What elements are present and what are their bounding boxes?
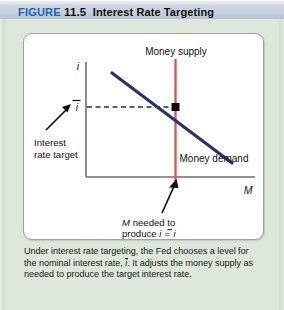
interest-rate-target-arrow-shaft [46, 108, 68, 130]
figure-caption: Under interest rate targeting, the Fed c… [24, 246, 262, 281]
interest-rate-target-arrow-head [62, 104, 71, 113]
money-needed-line1: M needed to [122, 217, 175, 228]
interest-rate-target-line1: Interest [34, 137, 66, 148]
figure-title: Interest Rate Targeting [93, 6, 214, 18]
figure-header-text: FIGURE 11.5 Interest Rate Targeting [18, 2, 214, 20]
y-axis-label: i [77, 60, 80, 72]
money-needed-arrow-shaft [162, 184, 175, 213]
interest-rate-target-annotation: Interest rate target [34, 104, 78, 160]
money-needed-ibar: i [173, 228, 176, 239]
money-demand-line [112, 73, 232, 163]
money-demand-label: Money demand [180, 153, 249, 164]
x-axis-label: M [244, 184, 253, 196]
interest-rate-target-line2: rate target [34, 149, 78, 160]
equilibrium-point [172, 103, 180, 111]
money-supply-label: Money supply [145, 46, 207, 57]
figure-label: FIGURE [18, 6, 61, 18]
interest-rate-targeting-chart: Money supply i M i Money demand Interest [24, 34, 263, 239]
figure-number: 11.5 [64, 6, 86, 18]
caption-i-bar: i [125, 258, 127, 270]
page-right-edge [278, 19, 284, 310]
money-needed-annotation: M needed to produce i = i [122, 179, 179, 239]
i-bar-text: i [76, 101, 79, 113]
chart-panel: Money supply i M i Money demand Interest [23, 33, 264, 240]
money-needed-arrow-head [169, 179, 179, 188]
i-bar-tick-label: i [73, 101, 81, 114]
figure-header-band: FIGURE 11.5 Interest Rate Targeting [0, 0, 284, 19]
page-left-edge [0, 19, 7, 310]
